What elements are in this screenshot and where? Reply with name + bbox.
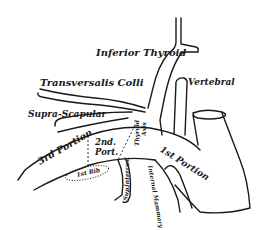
label-supra-scapular: Supra-Scapular bbox=[28, 110, 106, 119]
label-second-portion-1: 2nd. bbox=[95, 138, 116, 147]
label-transversalis-colli: Transversalis Colli bbox=[40, 78, 144, 88]
label-inferior-thyroid: Inferior Thyroid bbox=[96, 48, 186, 58]
label-intercostal: Intercos. bbox=[124, 157, 130, 187]
vertebral-vessel bbox=[174, 78, 187, 135]
label-vertebral: Vertebral bbox=[188, 78, 235, 87]
label-second-portion-2: Port. bbox=[95, 148, 118, 157]
label-thyroid-axis-2: Axis bbox=[141, 122, 147, 136]
subclavian-artery-diagram: Inferior Thyroid Transversalis Colli Ver… bbox=[0, 0, 267, 230]
